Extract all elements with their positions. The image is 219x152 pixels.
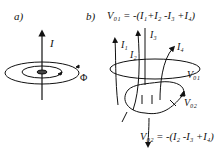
current-i2-line (133, 33, 139, 110)
loop-v02-label: V₀₂ (184, 98, 197, 108)
panel-a-label: a) (14, 11, 23, 22)
wire-cross-section (37, 70, 47, 74)
equation-v01: V₀₁ = -(I₁+I₂ -I₃ +I₄) (107, 11, 195, 22)
current-i1-label: I₁ (121, 40, 128, 50)
current-i1-line (115, 40, 118, 105)
loop-label: Φ (80, 73, 87, 83)
current-label: I (50, 38, 54, 49)
equation-v02: V₀₂ = -(I₂ -I₃ +I₄) (140, 132, 214, 143)
loop-v01-label: V₀₁ (187, 70, 200, 80)
current-i2-label: I₂ (130, 50, 137, 60)
current-i4-line (160, 48, 173, 100)
panel-b-label: b) (86, 11, 95, 22)
current-i4-label: I₄ (177, 42, 184, 52)
current-i3-label: I₃ (150, 30, 157, 40)
panel-a-graphic (5, 33, 79, 100)
